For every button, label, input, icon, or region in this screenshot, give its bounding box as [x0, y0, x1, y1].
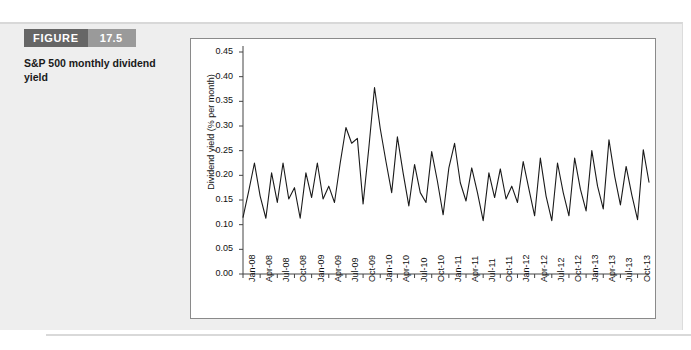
x-tick-label: Jul-11	[487, 258, 497, 282]
x-tick-label: Oct-10	[436, 255, 446, 282]
x-tick-label: Apr-12	[539, 255, 549, 282]
x-tick-label: Jul-12	[556, 257, 566, 282]
x-tick-label: Oct-08	[298, 255, 308, 282]
x-tick-label: Apr-13	[607, 255, 617, 282]
x-tick-label: Apr-11	[470, 256, 480, 282]
x-tick-label: Oct-13	[642, 255, 652, 282]
x-tick-label: Apr-08	[264, 255, 274, 282]
y-tick-label: 0.20	[203, 169, 233, 179]
x-tick-label: Apr-09	[333, 255, 343, 282]
x-tick-label: Jul-09	[350, 257, 360, 282]
figure-caption: S&P 500 monthly dividend yield	[24, 56, 174, 84]
x-tick-label: Oct-11	[504, 256, 514, 282]
y-tick-label: 0.40	[203, 71, 233, 81]
x-tick-label: Jan-10	[384, 254, 394, 282]
x-tick-label: Jan-12	[521, 254, 531, 282]
x-tick-label: Oct-12	[573, 255, 583, 282]
panel-bottom-rule	[46, 334, 691, 336]
x-tick-label: Jan-11	[453, 255, 463, 282]
x-tick-label: Jul-08	[281, 257, 291, 282]
y-tick-label: 0.25	[203, 145, 233, 155]
y-tick-label: 0.35	[203, 95, 233, 105]
figure-page: FIGURE 17.5 S&P 500 monthly dividend yie…	[0, 0, 691, 350]
plot-area: Dividend yield (% per month) 0.000.050.1…	[191, 39, 657, 320]
x-tick-label: Jan-13	[590, 254, 600, 282]
chart-card: Dividend yield (% per month) 0.000.050.1…	[190, 38, 656, 319]
y-tick-label: 0.30	[203, 120, 233, 130]
y-tick-label: 0.15	[203, 194, 233, 204]
x-tick-label: Jul-13	[624, 257, 634, 282]
x-tick-label: Jan-08	[247, 254, 257, 282]
figure-number: 17.5	[88, 29, 137, 47]
y-tick-label: 0.45	[203, 46, 233, 56]
x-tick-label: Jul-10	[419, 257, 429, 282]
figure-label: FIGURE	[24, 29, 88, 47]
y-tick-label: 0.00	[203, 268, 233, 278]
figure-header: FIGURE 17.5	[24, 29, 136, 47]
x-tick-label: Apr-10	[401, 255, 411, 282]
x-tick-label: Jan-09	[316, 254, 326, 282]
y-tick-label: 0.05	[203, 243, 233, 253]
y-tick-label: 0.10	[203, 219, 233, 229]
x-tick-label: Oct-09	[367, 255, 377, 282]
